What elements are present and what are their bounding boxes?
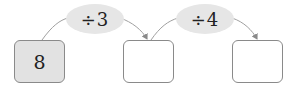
arrow-1-head xyxy=(120,18,147,39)
arrow-2-head xyxy=(232,18,257,39)
operation-oval-divide-4: ÷4 xyxy=(176,4,234,34)
answer-box-2[interactable] xyxy=(232,40,283,83)
box-value: 8 xyxy=(33,51,45,73)
division-chain-diagram: ÷3 ÷4 8 xyxy=(0,0,300,101)
operation-label: ÷4 xyxy=(191,9,220,30)
operation-oval-divide-3: ÷3 xyxy=(66,4,124,34)
operation-label: ÷3 xyxy=(81,9,110,30)
answer-box-1[interactable] xyxy=(123,40,174,83)
arrow-2 xyxy=(151,18,178,40)
arrow-1 xyxy=(42,18,68,40)
start-value-box: 8 xyxy=(14,40,65,83)
